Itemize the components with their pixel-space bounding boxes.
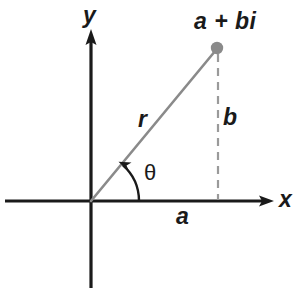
x-axis-label: x [279, 188, 292, 211]
real-part-label: a [176, 205, 189, 228]
angle-label: θ [144, 162, 156, 184]
y-axis-label: y [83, 4, 96, 27]
plotted-point [211, 42, 223, 54]
imaginary-part-label: b [223, 106, 237, 129]
radius-label: r [138, 108, 147, 131]
complex-plane-diagram: y x a + bi r b a θ [0, 0, 304, 288]
diagram-canvas [0, 0, 304, 288]
point-label: a + bi [194, 10, 256, 33]
angle-arc [123, 165, 139, 201]
